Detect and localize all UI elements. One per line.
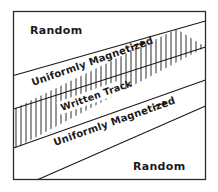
label-random-bottom: Random [133, 160, 185, 173]
label-random-top: Random [30, 24, 82, 37]
diagram-figure: Random Uniformly Magnetized Written Trac… [0, 0, 218, 192]
diagram-canvas: Random Uniformly Magnetized Written Trac… [0, 0, 218, 192]
